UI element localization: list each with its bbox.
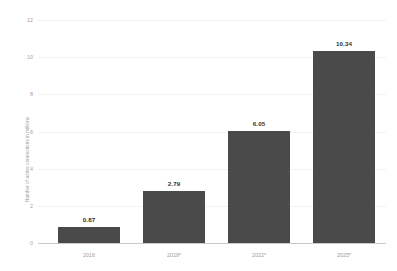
bar-series: 0.87 2016 2.79 2019* 6.05 2022* 10.34 20… [38,20,386,243]
bar-2022[interactable] [228,131,290,243]
bar-2019[interactable] [143,191,205,243]
y-tick-label-0: 0 [30,240,33,246]
x-tick-label-2019: 2019* [129,252,219,258]
y-tick-label-8: 8 [30,91,33,97]
bar-group-2022: 6.05 2022* [228,20,290,243]
plot-area: 12 10 8 6 4 2 0 0.87 2016 2.79 2019* 6.0… [38,20,386,243]
y-tick-label-2: 2 [30,203,33,209]
y-tick-label-10: 10 [27,54,33,60]
y-tick-label-4: 4 [30,166,33,172]
bar-value-2016: 0.87 [58,216,120,223]
bar-group-2019: 2.79 2019* [143,20,205,243]
bar-group-2016: 0.87 2016 [58,20,120,243]
bar-value-2022: 6.05 [228,120,290,127]
bar-value-2019: 2.79 [143,180,205,187]
x-tick-label-2016: 2016 [44,252,134,258]
bar-2016[interactable] [58,227,120,243]
x-tick-label-2025: 2025* [299,252,389,258]
x-tick-label-2022: 2022* [214,252,304,258]
y-tick-label-12: 12 [27,17,33,23]
bar-group-2025: 10.34 2025* [313,20,375,243]
bar-2025[interactable] [313,51,375,243]
bar-value-2025: 10.34 [313,40,375,47]
axis-baseline [38,243,386,244]
bar-chart: Number of active connections in millions… [0,0,397,271]
y-tick-label-6: 6 [30,129,33,135]
